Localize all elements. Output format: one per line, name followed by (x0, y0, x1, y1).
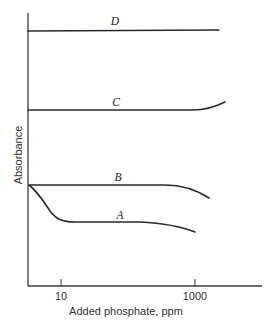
label-d: D (110, 15, 120, 27)
curve-c (28, 102, 225, 110)
x-axis-title: Added phosphate, ppm (69, 305, 183, 317)
label-b: B (114, 171, 121, 183)
x-tick-label-10: 10 (55, 290, 67, 302)
curve-b (29, 185, 209, 198)
curve-a (29, 185, 195, 232)
absorbance-vs-phosphate-chart: 10 1000 Added phosphate, ppm Absorbance … (0, 0, 264, 320)
label-c: C (112, 96, 120, 108)
y-axis-title: Absorbance (12, 126, 24, 185)
label-a: A (115, 209, 124, 221)
curve-d (28, 30, 219, 31)
x-tick-label-1000: 1000 (183, 290, 207, 302)
